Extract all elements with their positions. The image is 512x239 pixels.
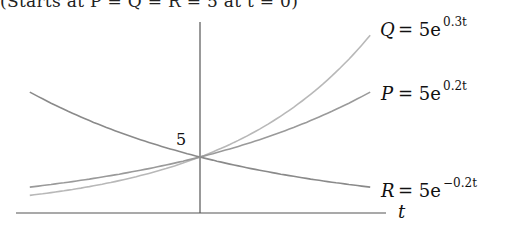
label-p-rhs: = 5e [398, 83, 441, 104]
x-axis-label: t [398, 201, 406, 222]
label-p-exponent: 0.2t [443, 79, 467, 93]
label-r: R = 5e −0.2t [380, 176, 477, 201]
label-p-name: P [380, 83, 394, 104]
label-q: Q = 5e 0.3t [380, 15, 467, 40]
label-q-exponent: 0.3t [443, 15, 467, 29]
label-q-name: Q [380, 19, 395, 40]
exponential-chart: 5 Q = 5e 0.3t P = 5e 0.2t R = 5e −0.2t t [0, 0, 512, 239]
label-q-rhs: = 5e [398, 19, 441, 40]
intercept-label: 5 [176, 130, 186, 149]
label-p: P = 5e 0.2t [380, 79, 467, 104]
label-r-rhs: = 5e [398, 180, 441, 201]
label-r-name: R [380, 180, 395, 201]
label-r-exponent: −0.2t [443, 176, 477, 190]
